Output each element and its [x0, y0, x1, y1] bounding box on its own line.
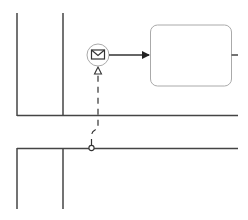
pool-bottom[interactable] [17, 148, 238, 209]
message-flow-source-circle [89, 145, 94, 150]
bpmn-diagram-canvas [0, 0, 248, 220]
message-flow-arrowhead-icon [95, 67, 102, 74]
message-flow[interactable] [89, 67, 102, 151]
task[interactable] [151, 25, 232, 86]
task-box [151, 25, 232, 86]
message-flow-line [92, 72, 99, 145]
message-event[interactable] [87, 44, 109, 66]
envelope-icon [92, 50, 105, 59]
